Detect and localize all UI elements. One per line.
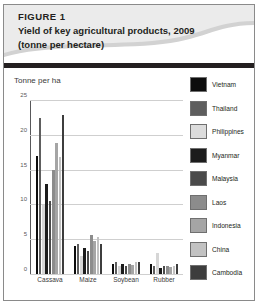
bar [87, 251, 90, 274]
legend-item: Cambodia [190, 261, 254, 285]
legend-item: Vietnam [190, 73, 254, 97]
bar [176, 264, 179, 274]
figure-subtitle: (tonne per hectare) [18, 38, 233, 52]
legend-swatch [190, 124, 207, 139]
figure-title: Yield of key agricultural products, 2009 [18, 24, 233, 38]
legend-label: Laos [212, 199, 226, 206]
bar [77, 244, 80, 274]
y-axis-tick-label: 25 [20, 92, 27, 98]
bar [125, 266, 128, 274]
bar [166, 266, 169, 274]
bar [118, 266, 121, 274]
bar [131, 265, 134, 274]
bar-groups: CassavaMaizeSoybeanRubber [31, 101, 183, 274]
chart-plot-panel: Tonne per ha 0510152025 CassavaMaizeSoyb… [10, 73, 186, 297]
bar [39, 118, 42, 274]
legend-item: Indonesia [190, 214, 254, 238]
legend-item: Malaysia [190, 167, 254, 191]
legend-swatch [190, 171, 207, 186]
header-divider [4, 63, 254, 68]
legend-label: Vietnam [212, 81, 236, 88]
legend-label: Myanmar [212, 152, 239, 159]
bar [97, 237, 100, 274]
legend-item: Thailand [190, 97, 254, 121]
bar [100, 244, 103, 274]
legend-swatch [190, 101, 207, 116]
legend-item: China [190, 238, 254, 262]
x-axis-tick-label: Rubber [153, 276, 174, 283]
bar [52, 170, 55, 274]
figure-container: FIGURE 1 Yield of key agricultural produ… [3, 4, 255, 301]
bar [173, 266, 176, 274]
bar [128, 264, 131, 274]
legend-label: Malaysia [212, 175, 238, 182]
bar [36, 156, 39, 274]
bar [45, 184, 48, 274]
legend-item: Philippines [190, 120, 254, 144]
bar-group: Soybean [107, 101, 145, 274]
y-axis-title: Tonne per ha [14, 76, 61, 85]
legend-swatch [190, 195, 207, 210]
bar [121, 264, 124, 274]
bar [169, 267, 172, 274]
legend-label: Indonesia [212, 222, 241, 229]
chart-legend: VietnamThailandPhilippinesMyanmarMalaysi… [190, 73, 254, 301]
x-axis-tick-label: Cassava [37, 276, 62, 283]
legend-swatch [190, 148, 207, 163]
legend-item: Laos [190, 191, 254, 215]
bar [90, 235, 93, 274]
legend-label: Cambodia [212, 269, 242, 276]
legend-label: China [212, 246, 229, 253]
bar-group: Rubber [145, 101, 183, 274]
bar [42, 205, 45, 274]
legend-item: Myanmar [190, 144, 254, 168]
bar [115, 262, 118, 274]
legend-swatch [190, 77, 207, 92]
bar-group: Maize [69, 101, 107, 274]
bar [83, 248, 86, 274]
bar [80, 256, 83, 274]
bar [59, 157, 62, 274]
bar [93, 241, 96, 274]
legend-label: Philippines [212, 128, 244, 135]
bar [153, 266, 156, 274]
bar [74, 246, 77, 274]
x-axis-tick-label: Maize [79, 276, 96, 283]
bar [112, 264, 115, 274]
gridline [30, 274, 183, 275]
figure-header-banner: FIGURE 1 Yield of key agricultural produ… [4, 5, 254, 65]
bar [49, 201, 52, 274]
legend-swatch [190, 265, 207, 280]
figure-header-text: FIGURE 1 Yield of key agricultural produ… [18, 10, 233, 51]
bar [150, 264, 153, 274]
y-axis-tick-label: 15 [20, 162, 27, 168]
bar [163, 266, 166, 274]
plot-area: 0510152025 CassavaMaizeSoybeanRubber [30, 101, 183, 275]
bar [159, 268, 162, 274]
legend-swatch [190, 242, 207, 257]
y-axis-tick-label: 10 [20, 196, 27, 202]
figure-label: FIGURE 1 [18, 10, 233, 23]
bar [135, 262, 138, 274]
bar [138, 262, 141, 274]
y-axis-tick-label: 0 [24, 266, 27, 272]
legend-label: Thailand [212, 105, 237, 112]
y-axis-tick-label: 5 [24, 231, 27, 237]
y-axis-tick-label: 20 [20, 127, 27, 133]
bar [55, 143, 58, 274]
bar [156, 253, 159, 274]
x-axis-tick-label: Soybean [113, 276, 139, 283]
legend-swatch [190, 218, 207, 233]
bar [62, 115, 65, 274]
bar-group: Cassava [31, 101, 69, 274]
